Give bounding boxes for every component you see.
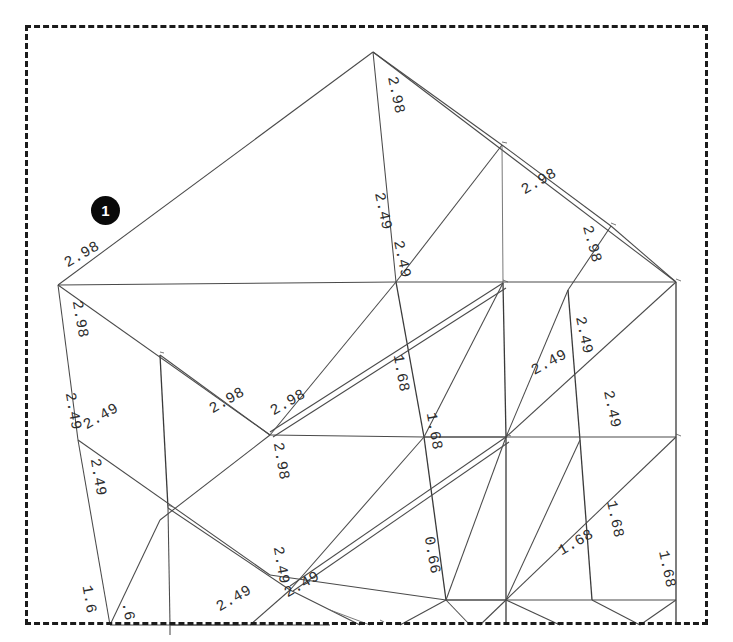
dimension-label: 2.49 xyxy=(269,545,292,585)
dimension-label: 2.98 xyxy=(68,299,91,339)
dimension-label: 1.68 xyxy=(389,353,412,393)
dimension-label: 2.98 xyxy=(383,75,408,116)
dimension-label: 0.66 xyxy=(420,535,443,575)
dimension-label: 2.98 xyxy=(519,165,560,199)
dimension-label: 2.49 xyxy=(61,391,84,431)
dimension-label: 2.49 xyxy=(86,457,109,497)
dimension-label: 2.98 xyxy=(269,441,292,481)
dimension-label: 2.49 xyxy=(214,582,255,616)
dimension-label: 2.49 xyxy=(370,191,395,232)
dimension-label: 1.68 xyxy=(654,549,679,590)
cut-off-caption xyxy=(28,632,688,642)
isometric-frame-svg: 2.982.492.982.982.982.982.492.492.492.49… xyxy=(0,0,733,642)
drawing-page: 2.982.492.982.982.982.982.492.492.492.49… xyxy=(0,0,733,642)
dimension-label: 2.49 xyxy=(599,389,624,430)
dimension-labels-group: 2.982.492.982.982.982.982.492.492.492.49… xyxy=(61,75,679,622)
annotation-badge-1[interactable]: 1 xyxy=(91,196,120,225)
dimension-label: 1.68 xyxy=(602,499,627,540)
dimension-label: 2.98 xyxy=(578,224,604,265)
dimension-label: 2.49 xyxy=(81,400,122,434)
dimension-label: 2.98 xyxy=(268,386,309,420)
dimension-label: 2.49 xyxy=(389,239,414,280)
dimension-label: 2.98 xyxy=(207,384,248,418)
dimension-label: 2.49 xyxy=(529,346,571,379)
dimension-label: 1.6 xyxy=(78,584,100,615)
joint-markers xyxy=(160,142,681,622)
dimension-label: 1.68 xyxy=(556,526,597,560)
dimension-label: 2.49 xyxy=(571,315,596,356)
dimension-label: .6 xyxy=(117,601,137,623)
